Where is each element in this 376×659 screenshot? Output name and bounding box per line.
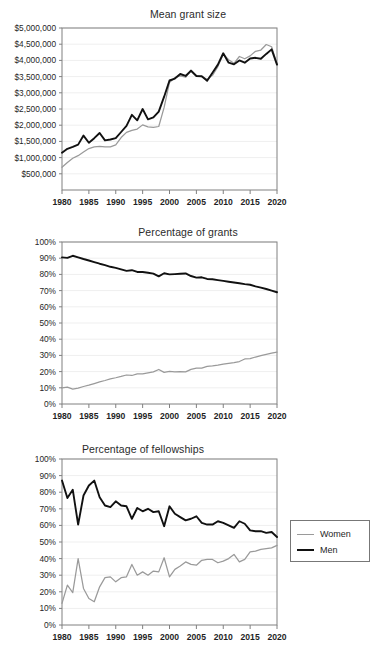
svg-text:100%: 100% bbox=[35, 454, 57, 464]
svg-text:1980: 1980 bbox=[52, 411, 71, 421]
svg-text:2005: 2005 bbox=[187, 411, 206, 421]
svg-text:2015: 2015 bbox=[241, 411, 260, 421]
svg-text:$2,000,000: $2,000,000 bbox=[14, 120, 56, 130]
svg-text:$2,500,000: $2,500,000 bbox=[14, 104, 56, 114]
svg-text:1980: 1980 bbox=[52, 197, 71, 207]
svg-text:1995: 1995 bbox=[133, 197, 152, 207]
svg-text:80%: 80% bbox=[39, 487, 56, 497]
legend-swatch-men-icon bbox=[297, 549, 314, 551]
svg-text:$500,000: $500,000 bbox=[21, 169, 56, 179]
svg-text:1990: 1990 bbox=[106, 411, 125, 421]
svg-text:2000: 2000 bbox=[160, 197, 179, 207]
svg-text:2000: 2000 bbox=[160, 632, 179, 642]
svg-text:40%: 40% bbox=[39, 554, 56, 564]
svg-text:90%: 90% bbox=[39, 253, 56, 263]
svg-text:1985: 1985 bbox=[79, 197, 98, 207]
svg-text:2020: 2020 bbox=[267, 197, 286, 207]
svg-text:10%: 10% bbox=[39, 603, 56, 613]
svg-text:$1,000,000: $1,000,000 bbox=[14, 153, 56, 163]
svg-text:20%: 20% bbox=[39, 587, 56, 597]
legend-swatch-women-icon bbox=[297, 534, 314, 535]
svg-text:2020: 2020 bbox=[267, 632, 286, 642]
svg-text:2000: 2000 bbox=[160, 411, 179, 421]
svg-text:2015: 2015 bbox=[241, 197, 260, 207]
svg-text:1990: 1990 bbox=[106, 197, 125, 207]
chart-svg-percentage-of-grants: 0%10%20%30%40%50%60%70%80%90%100%1980198… bbox=[0, 218, 376, 435]
svg-text:2010: 2010 bbox=[214, 411, 233, 421]
chart-panel-mean-grant-size: Mean grant size $500,000$1,000,000$1,500… bbox=[0, 0, 376, 218]
svg-text:1995: 1995 bbox=[133, 632, 152, 642]
legend-label-men: Men bbox=[320, 545, 338, 555]
legend-label-women: Women bbox=[320, 529, 351, 539]
svg-text:30%: 30% bbox=[39, 350, 56, 360]
svg-text:70%: 70% bbox=[39, 504, 56, 514]
svg-text:2015: 2015 bbox=[241, 632, 260, 642]
svg-text:2020: 2020 bbox=[267, 411, 286, 421]
series-line-women bbox=[62, 545, 277, 603]
svg-text:1980: 1980 bbox=[52, 632, 71, 642]
svg-text:$4,500,000: $4,500,000 bbox=[14, 39, 56, 49]
svg-text:0%: 0% bbox=[44, 399, 57, 409]
chart-panel-percentage-of-grants: Percentage of grants 0%10%20%30%40%50%60… bbox=[0, 218, 376, 435]
svg-text:2005: 2005 bbox=[187, 197, 206, 207]
chart-svg-mean-grant-size: $500,000$1,000,000$1,500,000$2,000,000$2… bbox=[0, 0, 376, 218]
svg-text:60%: 60% bbox=[39, 520, 56, 530]
svg-text:50%: 50% bbox=[39, 318, 56, 328]
svg-text:$3,000,000: $3,000,000 bbox=[14, 88, 56, 98]
svg-text:60%: 60% bbox=[39, 302, 56, 312]
svg-text:$3,500,000: $3,500,000 bbox=[14, 72, 56, 82]
chart-legend: Women Men bbox=[290, 520, 370, 562]
svg-text:1990: 1990 bbox=[106, 632, 125, 642]
svg-text:1995: 1995 bbox=[133, 411, 152, 421]
legend-item-men: Men bbox=[297, 542, 363, 558]
svg-text:$5,000,000: $5,000,000 bbox=[14, 23, 56, 33]
svg-text:2010: 2010 bbox=[214, 197, 233, 207]
svg-text:1985: 1985 bbox=[79, 411, 98, 421]
svg-text:2010: 2010 bbox=[214, 632, 233, 642]
svg-text:1985: 1985 bbox=[79, 632, 98, 642]
svg-text:0%: 0% bbox=[44, 620, 57, 630]
svg-text:2005: 2005 bbox=[187, 632, 206, 642]
series-line-men bbox=[62, 49, 277, 152]
svg-text:80%: 80% bbox=[39, 269, 56, 279]
svg-text:$4,000,000: $4,000,000 bbox=[14, 55, 56, 65]
svg-text:70%: 70% bbox=[39, 286, 56, 296]
legend-item-women: Women bbox=[297, 526, 363, 542]
svg-text:20%: 20% bbox=[39, 367, 56, 377]
svg-text:50%: 50% bbox=[39, 537, 56, 547]
svg-text:10%: 10% bbox=[39, 383, 56, 393]
series-line-women bbox=[62, 352, 277, 389]
svg-text:30%: 30% bbox=[39, 570, 56, 580]
svg-text:$1,500,000: $1,500,000 bbox=[14, 136, 56, 146]
svg-text:40%: 40% bbox=[39, 334, 56, 344]
svg-text:90%: 90% bbox=[39, 471, 56, 481]
svg-text:100%: 100% bbox=[35, 237, 57, 247]
